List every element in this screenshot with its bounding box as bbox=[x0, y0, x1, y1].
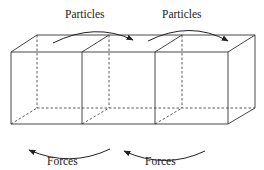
particles-arrow-1 bbox=[53, 32, 133, 43]
forces-label-2: Forces bbox=[145, 155, 176, 167]
domain-decomposition-diagram: Particles Particles Forces Forces bbox=[0, 0, 264, 170]
particles-arrow-2 bbox=[148, 31, 228, 42]
box-2 bbox=[82, 35, 155, 124]
particles-label-1: Particles bbox=[65, 8, 105, 20]
box-1 bbox=[11, 35, 82, 124]
forces-label-1: Forces bbox=[47, 155, 78, 167]
box-3 bbox=[155, 35, 255, 124]
hidden-edges bbox=[11, 35, 255, 124]
particles-label-2: Particles bbox=[162, 8, 202, 20]
